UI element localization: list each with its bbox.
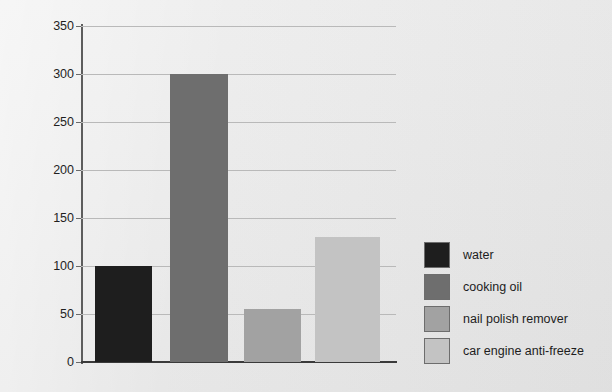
legend-label: nail polish remover bbox=[463, 312, 568, 326]
legend-item: cooking oil bbox=[424, 271, 604, 303]
bar-car-engine-anti-freeze bbox=[315, 237, 380, 362]
bar-cooking-oil bbox=[170, 74, 228, 362]
legend: watercooking oilnail polish removercar e… bbox=[424, 239, 604, 367]
legend-item: water bbox=[424, 239, 604, 271]
bar-water bbox=[95, 266, 152, 362]
legend-swatch-icon bbox=[424, 338, 450, 364]
legend-label: cooking oil bbox=[463, 280, 522, 294]
y-axis-tick-mark bbox=[76, 362, 81, 363]
bar-chart-figure: Temperature (°C) 050100150200250300350 w… bbox=[0, 0, 612, 392]
legend-item: nail polish remover bbox=[424, 303, 604, 335]
legend-swatch-icon bbox=[424, 306, 450, 332]
legend-item: car engine anti-freeze bbox=[424, 335, 604, 367]
legend-label: water bbox=[463, 248, 494, 262]
legend-swatch-icon bbox=[424, 274, 450, 300]
legend-swatch-icon bbox=[424, 242, 450, 268]
bar-nail-polish-remover bbox=[244, 309, 301, 362]
legend-label: car engine anti-freeze bbox=[463, 344, 584, 358]
